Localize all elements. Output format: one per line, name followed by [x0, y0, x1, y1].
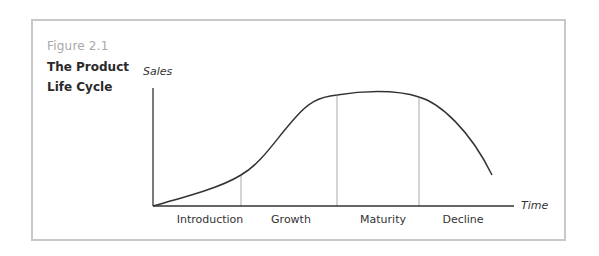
y-axis-label: Sales: [143, 65, 172, 78]
sales-curve: [153, 92, 492, 207]
stage-label-decline: Decline: [430, 213, 496, 226]
stage-label-growth: Growth: [258, 213, 324, 226]
x-axis-label: Time: [521, 199, 548, 212]
stage-label-maturity: Maturity: [350, 213, 416, 226]
stage-label-introduction: Introduction: [160, 213, 260, 226]
